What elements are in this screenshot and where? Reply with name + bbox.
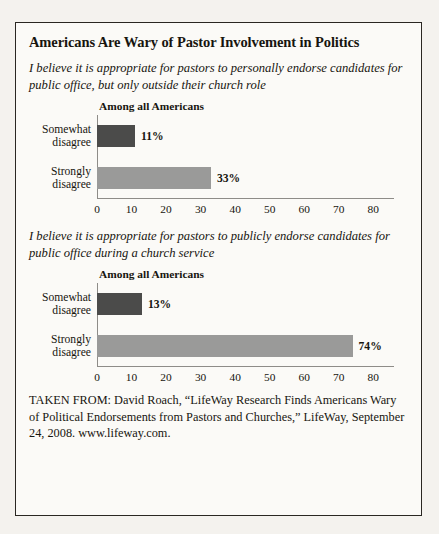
x-axis-ticks-1: 01020304050607080 [97, 201, 394, 221]
source-citation: TAKEN FROM: David Roach, “LifeWay Resear… [29, 392, 408, 441]
category-label: Somewhat disagree [25, 123, 91, 149]
figure-container: Americans Are Wary of Pastor Involvement… [15, 22, 422, 516]
x-tick-label: 80 [368, 371, 379, 383]
bar-row: Somewhat disagree 11% [97, 125, 394, 147]
category-label: Strongly disagree [25, 165, 91, 191]
x-tick-label: 60 [299, 371, 310, 383]
series-label-1: Among all Americans [29, 100, 408, 112]
bars-2: Somewhat disagree 13% Strongly disagree … [97, 283, 394, 367]
x-tick-label: 30 [195, 203, 206, 215]
series-label-2: Among all Americans [29, 268, 408, 280]
bar-strongly-disagree [97, 335, 353, 357]
bar-row: Somewhat disagree 13% [97, 293, 394, 315]
x-tick-label: 50 [264, 203, 275, 215]
x-tick-label: 20 [160, 371, 171, 383]
chart-panel-1: I believe it is appropriate for pastors … [29, 60, 408, 210]
category-label: Somewhat disagree [25, 291, 91, 317]
x-tick-label: 20 [160, 203, 171, 215]
bars-1: Somewhat disagree 11% Strongly disagree … [97, 115, 394, 199]
x-tick-label: 0 [94, 371, 100, 383]
bar-row: Strongly disagree 33% [97, 167, 394, 189]
bar-value-label: 13% [148, 298, 171, 311]
bar-somewhat-disagree [97, 293, 142, 315]
x-tick-label: 40 [229, 203, 240, 215]
bar-strongly-disagree [97, 167, 211, 189]
bar-value-label: 74% [359, 340, 382, 353]
x-tick-label: 80 [368, 203, 379, 215]
x-tick-label: 60 [299, 203, 310, 215]
x-tick-label: 70 [333, 371, 344, 383]
chart-question-1: I believe it is appropriate for pastors … [29, 60, 408, 94]
x-tick-label: 0 [94, 203, 100, 215]
x-tick-label: 10 [126, 203, 137, 215]
x-axis-ticks-2: 01020304050607080 [97, 369, 394, 389]
chart-panel-2: I believe it is appropriate for pastors … [29, 228, 408, 378]
bar-value-label: 33% [217, 172, 240, 185]
bar-row: Strongly disagree 74% [97, 335, 394, 357]
bar-value-label: 11% [141, 130, 164, 143]
bar-somewhat-disagree [97, 125, 135, 147]
plot-area-1: Somewhat disagree 11% Strongly disagree … [29, 115, 408, 221]
figure-title: Americans Are Wary of Pastor Involvement… [29, 34, 408, 51]
chart-question-2: I believe it is appropriate for pastors … [29, 228, 408, 262]
x-tick-label: 10 [126, 371, 137, 383]
plot-area-2: Somewhat disagree 13% Strongly disagree … [29, 283, 408, 389]
x-tick-label: 70 [333, 203, 344, 215]
category-label: Strongly disagree [25, 333, 91, 359]
x-tick-label: 40 [229, 371, 240, 383]
x-tick-label: 50 [264, 371, 275, 383]
x-tick-label: 30 [195, 371, 206, 383]
